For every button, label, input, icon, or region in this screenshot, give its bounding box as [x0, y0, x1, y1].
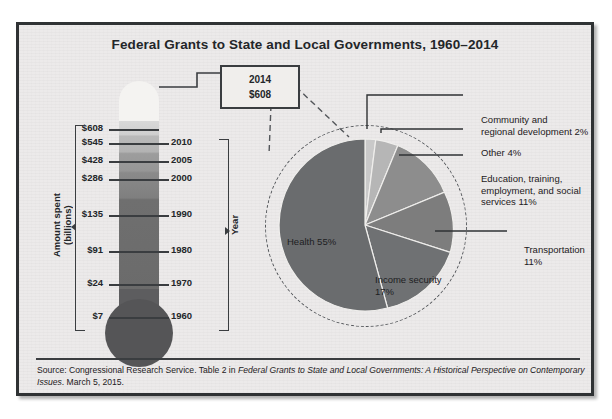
thermometer-tick-2000: $286 2000	[43, 179, 243, 180]
thermometer-tick-2014: $608	[43, 129, 243, 130]
callout-box: 2014 $608	[220, 65, 300, 109]
callout-amount: $608	[249, 87, 271, 102]
tick-amount-label: $545	[82, 136, 103, 147]
source-note: Source: Congressional Research Service. …	[37, 365, 585, 388]
pie-label-health: Health 55%	[287, 236, 336, 248]
thermometer-tick-2010: $545 2010	[43, 143, 243, 144]
tick-line	[119, 251, 159, 253]
pie-label-income-security: Income security 17%	[375, 274, 451, 298]
pie-key-transportation: Transportation 11%	[524, 244, 591, 267]
amount-axis-label: Amount spent(billions)	[51, 165, 73, 285]
figure-panel: Federal Grants to State and Local Govern…	[16, 22, 594, 396]
tick-amount-label: $24	[87, 277, 103, 288]
tick-line	[119, 161, 159, 163]
pie-key-education: Education, training, employment, and soc…	[481, 173, 581, 208]
pie-key-other: Other 4%	[481, 147, 521, 159]
amount-axis-label-line2: (billions)	[62, 205, 73, 245]
thermometer-chart: $608 $545 2010 $428 2005 $286	[43, 67, 243, 357]
tick-stub-right	[157, 284, 169, 286]
year-axis-label: Year	[229, 195, 240, 255]
tick-amount-label: $91	[87, 244, 103, 255]
tick-amount-label: $135	[82, 208, 103, 219]
tick-stub-right	[157, 179, 169, 181]
pie-key-education-line3: services 11%	[481, 196, 537, 207]
thermometer-tick-1970: $24 1970	[43, 284, 243, 285]
tick-line	[119, 317, 159, 319]
tick-year-label: 2000	[171, 172, 192, 183]
thermometer-tube	[119, 81, 159, 313]
tick-year-label: 1990	[171, 208, 192, 219]
tick-line	[119, 284, 159, 286]
tick-stub-right	[157, 143, 169, 145]
tick-line	[119, 215, 159, 217]
tick-year-label: 2010	[171, 136, 192, 147]
tick-line	[119, 179, 159, 181]
thermometer-tick-1990: $135 1990	[43, 215, 243, 216]
tick-amount-label: $286	[82, 172, 103, 183]
tick-line	[119, 129, 159, 131]
pie-key-education-line1: Education, training,	[481, 173, 562, 184]
pie-key-community-line1: Community and	[481, 114, 548, 125]
amount-axis-label-line1: Amount spent	[51, 193, 62, 257]
pie-key-community-line2: regional development 2%	[481, 126, 588, 137]
tick-stub-right	[157, 317, 169, 319]
thermometer-tick-2005: $428 2005	[43, 161, 243, 162]
tick-year-label: 2005	[171, 154, 192, 165]
source-suffix: . March 5, 2015.	[62, 377, 124, 387]
pie-chart: Health 55% Income security 17%	[265, 121, 465, 347]
tick-year-label: 1960	[171, 310, 192, 321]
tick-year-label: 1970	[171, 277, 192, 288]
tick-stub-right	[157, 251, 169, 253]
year-axis-bracket	[219, 139, 229, 331]
pie-key-education-line2: employment, and social	[481, 185, 581, 196]
thermometer-tick-1960: $7 1960	[43, 317, 243, 318]
figure-root: Federal Grants to State and Local Govern…	[0, 0, 612, 419]
callout-year: 2014	[249, 72, 271, 87]
tick-line	[119, 143, 159, 145]
tick-amount-label: $428	[82, 154, 103, 165]
amount-axis-bracket	[75, 125, 85, 331]
source-prefix: Source: Congressional Research Service. …	[37, 365, 238, 375]
tick-amount-label: $608	[82, 122, 103, 133]
thermometer-bulb	[105, 299, 173, 367]
tick-year-label: 1980	[171, 244, 192, 255]
tick-stub-right	[157, 215, 169, 217]
pie-key-community: Community and regional development 2%	[481, 114, 588, 137]
tick-amount-label: $7	[92, 310, 103, 321]
source-divider	[36, 358, 580, 360]
chart-title: Federal Grants to State and Local Govern…	[19, 37, 591, 52]
tick-stub-right	[157, 161, 169, 163]
thermometer-tick-1980: $91 1980	[43, 251, 243, 252]
